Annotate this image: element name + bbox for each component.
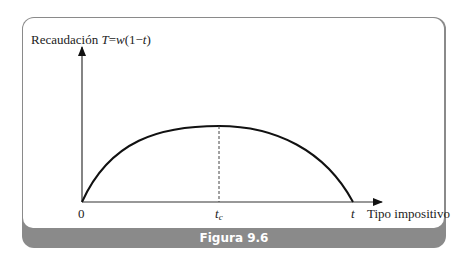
revenue-curve bbox=[82, 126, 353, 202]
t-label: t bbox=[351, 206, 355, 221]
origin-label: 0 bbox=[78, 206, 85, 221]
y-axis-label: Recaudación T=w(1−t) bbox=[31, 32, 151, 47]
x-axis-label: Tipo impositivo bbox=[367, 206, 450, 221]
chart-svg: Recaudación T=w(1−t) 0 tc t Tipo imposit… bbox=[0, 0, 472, 263]
tc-label: tc bbox=[215, 206, 223, 222]
